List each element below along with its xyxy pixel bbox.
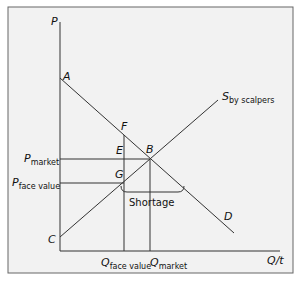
point-a: A xyxy=(62,70,71,83)
q-axis-label: Q/t xyxy=(267,254,284,267)
p-axis-label: P xyxy=(51,15,58,28)
chart: P Q/t A F E B G C D Shortage Pmarket Pfa… xyxy=(0,0,300,281)
point-c: C xyxy=(48,233,56,246)
point-f: F xyxy=(121,120,128,133)
supply-demand-diagram: P Q/t A F E B G C D Shortage Pmarket Pfa… xyxy=(0,0,300,281)
shortage-label: Shortage xyxy=(129,197,174,208)
point-b: B xyxy=(146,143,154,156)
point-d: D xyxy=(224,210,232,223)
point-g: G xyxy=(115,168,124,181)
point-e: E xyxy=(116,144,123,157)
